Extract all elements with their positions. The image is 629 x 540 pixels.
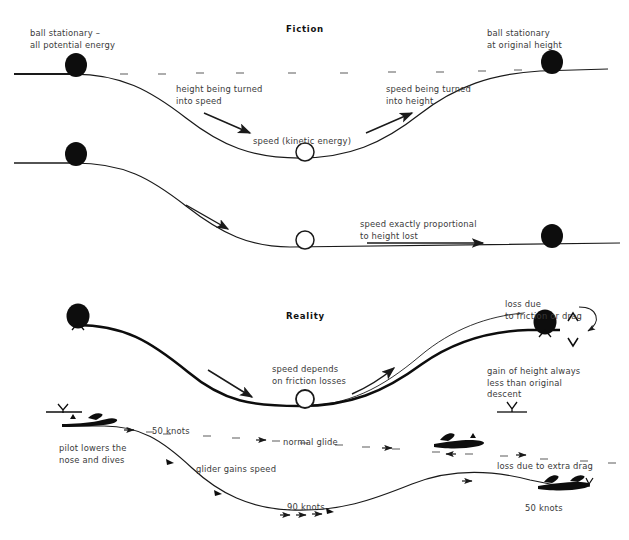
label-speed-into-height: speed being turned into height [386, 84, 471, 107]
label-ball-stationary-start: ball stationary – all potential energy [30, 28, 115, 51]
ball-end-lower [541, 224, 563, 248]
ball-start-lower [65, 142, 87, 166]
speed-90-arrows [280, 514, 322, 515]
label-glider-gains-speed: glider gains speed [196, 464, 276, 476]
panel-title-fiction: Fiction [286, 24, 324, 34]
label-speed-50-knots-end: 50 knots [525, 503, 563, 513]
label-speed-kinetic-energy: speed (kinetic energy) [253, 136, 351, 148]
label-speed-exactly-proportional: speed exactly proportional to height los… [360, 219, 477, 242]
caret-down-icon [568, 338, 578, 346]
ball-bottom-lower [296, 231, 314, 249]
label-height-into-speed: height being turned into speed [176, 84, 263, 107]
ball-start-upper [65, 53, 87, 77]
glider-icon-start [46, 404, 117, 427]
label-speed-50-knots-top: 50 knots [152, 426, 190, 436]
label-loss-due-friction-drag: loss due to friction or drag [505, 299, 582, 322]
ball-end-upper [541, 50, 563, 74]
label-speed-depends-friction: speed depends on friction losses [272, 364, 346, 387]
glider-icon-middle [434, 433, 484, 448]
label-normal-glide: normal glide [283, 437, 338, 447]
panel-title-reality: Reality [286, 311, 325, 321]
diagram-canvas: Fiction Reality ball stationary – all po… [0, 0, 629, 540]
label-speed-90-knots: 90 knots [287, 502, 325, 512]
datum-mark-reality [497, 402, 527, 412]
label-ball-stationary-end: ball stationary at original height [487, 28, 562, 51]
fiction-arrows-upper [204, 113, 412, 133]
fiction-track-lower [14, 142, 620, 249]
label-gain-of-height: gain of height always less than original… [487, 366, 580, 401]
datum-line-glide [146, 432, 616, 463]
datum-line-fiction [120, 70, 522, 74]
ball-bottom-reality [296, 390, 314, 408]
label-loss-due-extra-drag: loss due to extra drag [497, 461, 593, 473]
ball-start-reality [67, 304, 90, 329]
label-pilot-lowers-nose: pilot lowers the nose and dives [59, 443, 127, 466]
